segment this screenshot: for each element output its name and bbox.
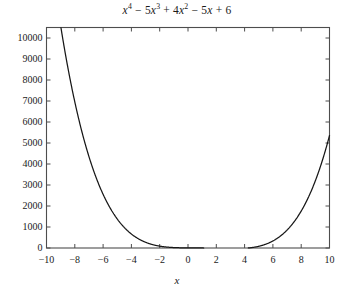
x-tick-label: 4 — [242, 254, 247, 265]
x-tick-label: 10 — [325, 254, 335, 265]
x-tick-label: −8 — [69, 254, 80, 265]
y-tick-label: 9000 — [23, 53, 43, 64]
y-tick-label: 0 — [38, 242, 43, 253]
x-tick-label: 0 — [186, 254, 191, 265]
y-tick-label: 1000 — [23, 221, 43, 232]
y-tick-label: 8000 — [23, 74, 43, 85]
y-tick-label: 7000 — [23, 95, 43, 106]
polynomial-curve — [61, 28, 330, 248]
x-tick-label: 2 — [214, 254, 219, 265]
y-tick-label: 10000 — [18, 32, 43, 43]
x-tick-label: −10 — [39, 254, 55, 265]
plot-area: 0100020003000400050006000700080009000100… — [0, 0, 354, 301]
y-tick-label: 5000 — [23, 137, 43, 148]
x-tick-label: −2 — [154, 254, 165, 265]
x-tick-labels: −10−8−6−4−20246810 — [39, 254, 335, 265]
plot-frame — [47, 28, 330, 249]
tick-marks — [47, 28, 330, 249]
chart-figure: x4 − 5x3 + 4x2 − 5x + 6 0100020003000400… — [0, 0, 354, 301]
x-tick-label: −4 — [126, 254, 137, 265]
y-tick-label: 4000 — [23, 158, 43, 169]
x-tick-label: 6 — [270, 254, 275, 265]
y-tick-label: 3000 — [23, 179, 43, 190]
x-tick-label: 8 — [299, 254, 304, 265]
y-tick-label: 2000 — [23, 200, 43, 211]
x-axis-label: x — [0, 274, 354, 286]
y-tick-label: 6000 — [23, 116, 43, 127]
y-tick-labels: 0100020003000400050006000700080009000100… — [18, 32, 43, 253]
x-tick-label: −6 — [98, 254, 109, 265]
